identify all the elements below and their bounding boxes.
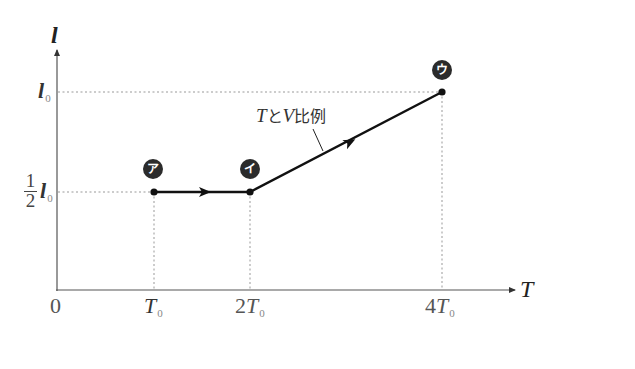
annotation-leader-line xyxy=(313,129,323,151)
point-label-u: ウ xyxy=(432,60,452,80)
x-tick-4T0: 4T0 xyxy=(425,293,455,319)
origin-label: 0 xyxy=(50,293,61,319)
y-tick-half-l0: 1 2 l0 xyxy=(24,172,53,210)
annotation-t-v-proportional: TとV比例 xyxy=(256,103,326,127)
point-i xyxy=(246,188,253,195)
x-axis-label: T xyxy=(520,276,533,303)
y-axis-label: l xyxy=(51,22,58,49)
point-u xyxy=(438,88,445,95)
y-tick-l0: l0 xyxy=(38,78,51,104)
point-a xyxy=(150,188,157,195)
diagram-canvas xyxy=(0,0,635,369)
point-label-a: ア xyxy=(143,159,163,179)
x-tick-T0: T0 xyxy=(144,293,163,319)
point-label-i: イ xyxy=(240,159,260,179)
x-tick-2T0: 2T0 xyxy=(235,293,265,319)
fraction-one-half: 1 2 xyxy=(24,172,37,210)
